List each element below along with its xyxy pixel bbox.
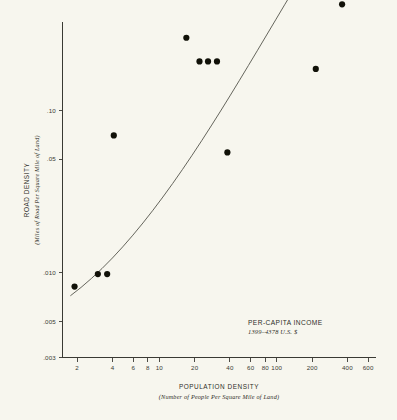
y-tick-label: .003 xyxy=(43,354,56,361)
x-tick-label: 4 xyxy=(111,364,115,371)
y-tick-label: .10 xyxy=(47,107,57,114)
y-tick-label: .010 xyxy=(43,269,56,276)
x-tick-label: 20 xyxy=(191,364,199,371)
data-point xyxy=(104,271,110,277)
x-tick-label: 2 xyxy=(75,364,79,371)
annotation-block: PER-CAPITA INCOME 1399–4378 U.S. $ xyxy=(248,319,323,335)
x-tick-label: 100 xyxy=(271,364,282,371)
plot-axes xyxy=(63,22,377,358)
x-tick-label: 60 xyxy=(247,364,255,371)
data-point xyxy=(95,271,101,277)
x-tick-label: 80 xyxy=(262,364,270,371)
y-tick-label: .005 xyxy=(43,318,56,325)
y-axis-ticks: .003.005.010.05.10.513 xyxy=(43,0,62,361)
x-tick-label: 200 xyxy=(307,364,318,371)
data-point xyxy=(196,58,202,64)
data-point xyxy=(224,149,230,155)
x-tick-label: 10 xyxy=(156,364,164,371)
scatter-plot-svg: .003.005.010.05.10.513 24681020406080100… xyxy=(0,0,397,420)
x-tick-label: 400 xyxy=(342,364,353,371)
y-axis-title-group: ROAD DENSITY (Miles of Road Per Square M… xyxy=(23,135,41,244)
y-axis-subtitle: (Miles of Road Per Square Mile of Land) xyxy=(33,135,41,244)
x-tick-label: 8 xyxy=(146,364,150,371)
trend-line xyxy=(70,0,371,296)
data-points-group xyxy=(71,0,371,290)
data-point xyxy=(214,58,220,64)
y-axis-title: ROAD DENSITY xyxy=(23,163,30,218)
x-axis-ticks: 24681020406080100200400600 xyxy=(75,358,374,372)
x-tick-label: 40 xyxy=(226,364,234,371)
trend-line-group xyxy=(70,0,371,296)
x-tick-label: 6 xyxy=(131,364,135,371)
data-point xyxy=(111,132,117,138)
annotation-line-2: 1399–4378 U.S. $ xyxy=(248,328,298,335)
x-axis-title-group: POPULATION DENSITY (Number of People Per… xyxy=(159,383,279,401)
data-point xyxy=(205,58,211,64)
y-tick-label: .05 xyxy=(47,155,57,162)
annotation-line-1: PER-CAPITA INCOME xyxy=(248,319,323,326)
x-tick-label: 600 xyxy=(363,364,374,371)
data-point xyxy=(183,35,189,41)
x-axis-subtitle: (Number of People Per Square Mile of Lan… xyxy=(159,393,279,401)
data-point xyxy=(313,66,319,72)
data-point xyxy=(71,284,77,290)
data-point xyxy=(339,1,345,7)
x-axis-title: POPULATION DENSITY xyxy=(179,383,259,390)
chart-figure: .003.005.010.05.10.513 24681020406080100… xyxy=(0,0,397,420)
